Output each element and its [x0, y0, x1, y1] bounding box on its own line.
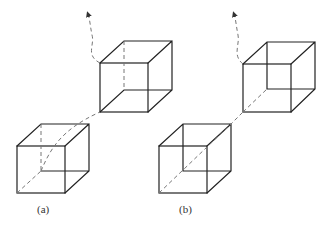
trajectory-arrow-b: [234, 14, 243, 64]
cube-b-top: [243, 42, 315, 112]
cube-a-top: [100, 41, 172, 112]
cube-a-bottom: [17, 124, 89, 193]
panel-label-a: (a): [37, 203, 49, 215]
panel-label-b: (b): [179, 203, 192, 215]
trajectory-arrow-a: [88, 14, 100, 63]
panel-a: [17, 14, 172, 193]
figure-canvas: [0, 0, 326, 226]
panel-b: [159, 14, 315, 193]
